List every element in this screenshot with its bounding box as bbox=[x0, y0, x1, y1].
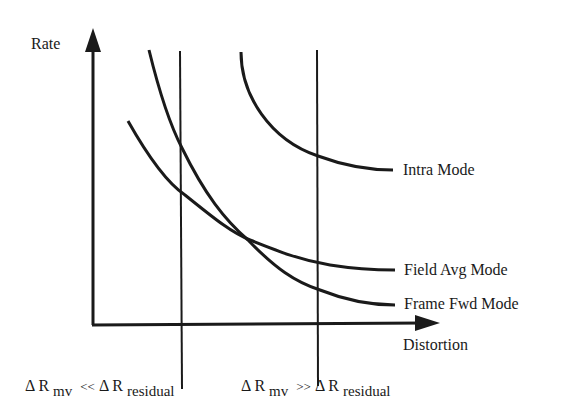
divider-line-right bbox=[317, 50, 318, 386]
curve-frame-fwd-mode bbox=[149, 50, 395, 305]
y-axis bbox=[85, 28, 101, 325]
region-label-right: Δ R mv >> Δ R residual bbox=[241, 378, 390, 394]
delta-symbol: Δ bbox=[241, 377, 250, 394]
delta-symbol: Δ bbox=[315, 377, 324, 394]
region-label-left: Δ R mv << Δ R residual bbox=[25, 378, 174, 394]
x-axis bbox=[92, 315, 440, 331]
y-axis-arrow-icon bbox=[85, 28, 101, 52]
rate-distortion-diagram bbox=[0, 0, 565, 418]
y-axis-label: Rate bbox=[31, 36, 60, 52]
curve-label-intra-mode: Intra Mode bbox=[403, 162, 475, 178]
divider-line-left bbox=[180, 51, 182, 389]
delta-symbol: Δ bbox=[25, 377, 34, 394]
x-axis-arrow-icon bbox=[415, 315, 440, 331]
delta-symbol: Δ bbox=[99, 377, 108, 394]
x-axis-label: Distortion bbox=[403, 337, 468, 353]
curve-field-avg-mode bbox=[128, 121, 395, 270]
curve-label-field-avg-mode: Field Avg Mode bbox=[404, 262, 508, 278]
curve-label-frame-fwd-mode: Frame Fwd Mode bbox=[404, 296, 519, 312]
